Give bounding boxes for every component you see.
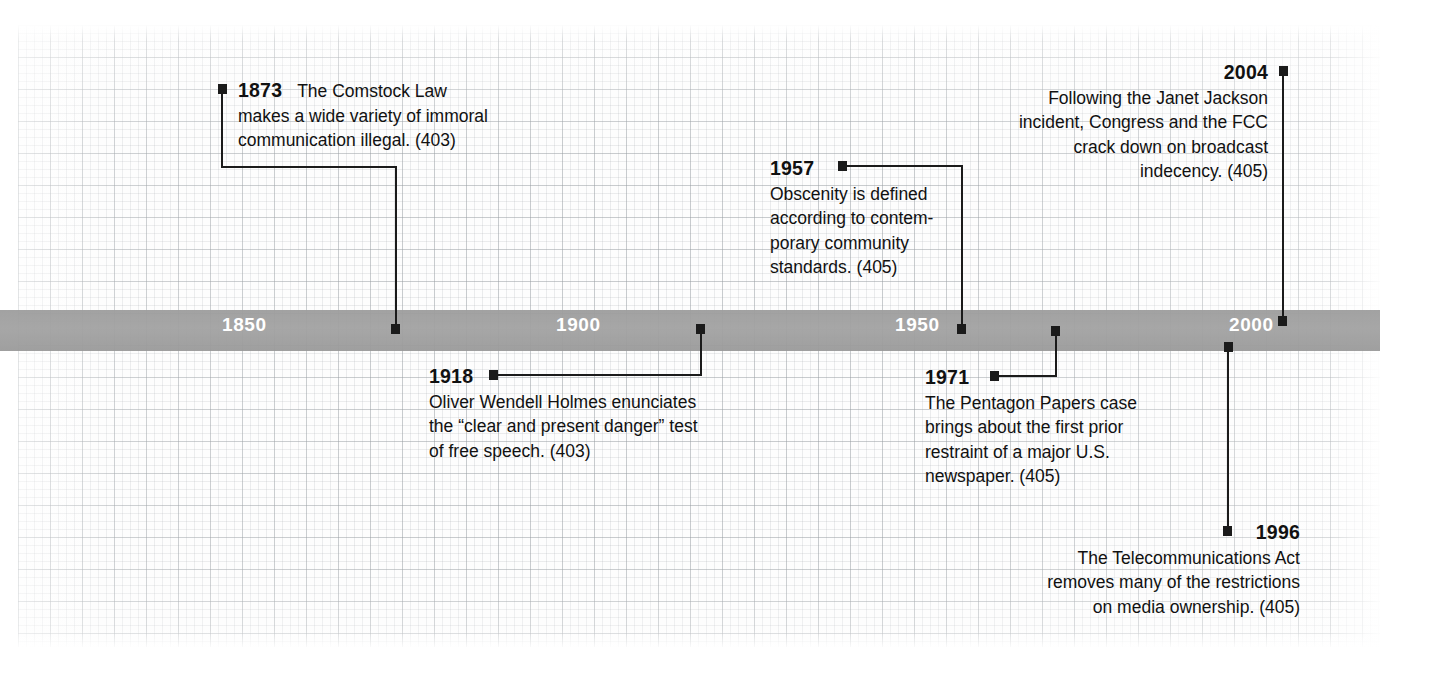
axis-tick-label-1900: 1900	[556, 314, 601, 336]
event-year-1971: 1971	[925, 365, 1137, 391]
event-2004: 2004 Following the Janet Jackson inciden…	[873, 60, 1268, 184]
event-year-1873: 1873	[238, 79, 282, 101]
event-line-1971-3: newspaper. (405)	[925, 464, 1137, 489]
event-line-2004-1: incident, Congress and the FCC	[873, 110, 1268, 135]
connector-vertical-2004	[1282, 72, 1284, 320]
event-1996: 1996 The Telecommunications Act removes …	[880, 520, 1300, 619]
connector-horizontal-1873	[221, 166, 397, 168]
axis-tick-label-1850: 1850	[222, 314, 267, 336]
event-line-1957-3: standards. (405)	[770, 255, 933, 280]
marker-square-1873-axis	[391, 324, 400, 334]
event-line-1971-0: The Pentagon Papers case	[925, 391, 1137, 416]
connector-vertical-1996	[1227, 348, 1229, 528]
event-line-1918-0: Oliver Wendell Holmes enunciates	[429, 390, 698, 415]
event-1971: 1971 The Pentagon Papers case brings abo…	[925, 365, 1137, 489]
marker-square-1918-axis	[696, 324, 705, 334]
event-line-1918-2: of free speech. (403)	[429, 439, 698, 464]
connector-vertical-1873-b	[395, 166, 397, 326]
event-line-1873-0: The Comstock Law	[297, 81, 447, 101]
event-line-1918-1: the “clear and present danger” test	[429, 414, 698, 439]
event-line-2004-0: Following the Janet Jackson	[873, 86, 1268, 111]
event-line-2004-2: crack down on broadcast	[873, 135, 1268, 160]
event-1918: 1918 Oliver Wendell Holmes enunciates th…	[429, 364, 698, 463]
timeline-axis-band	[0, 310, 1380, 351]
marker-square-1957-axis	[957, 324, 966, 334]
axis-tick-label-2000: 2000	[1229, 314, 1274, 336]
event-line-1957-0: Obscenity is defined	[770, 182, 933, 207]
event-line-1996-1: removes many of the restrictions	[880, 570, 1300, 595]
connector-vertical-1873-a	[221, 90, 223, 168]
timeline-figure: 1850 1900 1950 2000 1873 The Comstock La…	[0, 0, 1455, 689]
event-line-1971-2: restraint of a major U.S.	[925, 440, 1137, 465]
event-year-2004: 2004	[873, 60, 1268, 86]
event-line-1873-2: communication illegal. (403)	[238, 128, 488, 153]
event-line-1971-1: brings about the first prior	[925, 415, 1137, 440]
event-line-1957-2: porary community	[770, 231, 933, 256]
axis-tick-label-1950: 1950	[895, 314, 940, 336]
marker-square-2004-axis	[1278, 316, 1287, 326]
connector-vertical-1957	[961, 165, 963, 326]
event-year-1996: 1996	[880, 520, 1300, 546]
event-line-2004-3: indecency. (405)	[873, 159, 1268, 184]
event-line-1996-0: The Telecommunications Act	[880, 546, 1300, 571]
event-line-1873-1: makes a wide variety of immoral	[238, 104, 488, 129]
marker-square-1971-axis	[1051, 326, 1060, 336]
connector-vertical-1918	[700, 330, 702, 376]
event-1873: 1873 The Comstock Law makes a wide varie…	[238, 78, 488, 153]
event-year-1918: 1918	[429, 364, 698, 390]
event-line-1957-1: according to contem-	[770, 206, 933, 231]
event-line-1996-2: on media ownership. (405)	[880, 595, 1300, 620]
